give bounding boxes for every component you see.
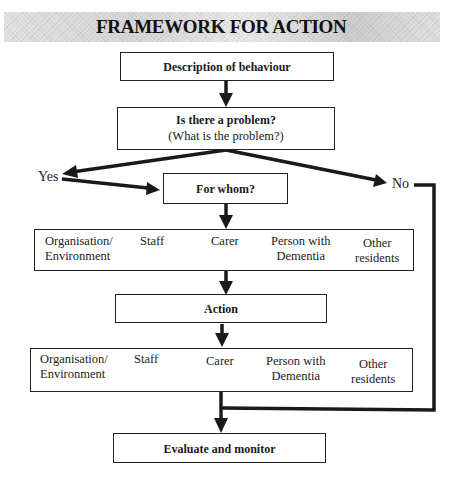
cell-other-residents: Otherresidents	[355, 236, 399, 266]
branch-yes-label: Yes	[38, 169, 58, 185]
cell-organisation: Organisation/Environment	[40, 352, 108, 382]
cell-person-with-dementia: Person withDementia	[266, 354, 325, 384]
node-problem: Is there a problem? (What is the problem…	[117, 107, 335, 150]
node-action: Action	[115, 294, 327, 323]
cell-person-with-dementia: Person withDementia	[271, 234, 330, 264]
node-description: Description of behaviour	[120, 52, 334, 81]
node-evaluate-label: Evaluate and monitor	[163, 442, 275, 456]
cell-carer: Carer	[206, 354, 234, 369]
cell-staff: Staff	[140, 234, 164, 249]
node-description-label: Description of behaviour	[163, 60, 290, 74]
arrow-row-to-evaluate	[214, 392, 228, 433]
arrow-action-to-row	[215, 324, 229, 347]
arrow-yes-to-for-whom	[62, 179, 160, 195]
node-for-whom: For whom?	[163, 173, 288, 204]
node-for-whom-label: For whom?	[196, 182, 255, 196]
node-action-label: Action	[204, 302, 238, 316]
arrow-row-to-action	[219, 271, 233, 295]
cell-carer: Carer	[211, 234, 239, 249]
cell-organisation: Organisation/Environment	[45, 234, 113, 264]
arrow-for-whom-to-row	[219, 204, 233, 229]
category-row-who: Organisation/Environment Staff Carer Per…	[34, 229, 414, 271]
cell-other-residents: Otherresidents	[351, 357, 395, 387]
node-problem-sublabel: (What is the problem?)	[118, 128, 334, 144]
arrow-description-to-problem	[219, 80, 233, 107]
cell-staff: Staff	[134, 352, 158, 367]
node-evaluate: Evaluate and monitor	[113, 433, 326, 463]
branch-no-label: No	[392, 176, 409, 192]
category-row-action: Organisation/Environment Staff Carer Per…	[30, 348, 413, 392]
node-problem-label: Is there a problem?	[118, 112, 334, 128]
